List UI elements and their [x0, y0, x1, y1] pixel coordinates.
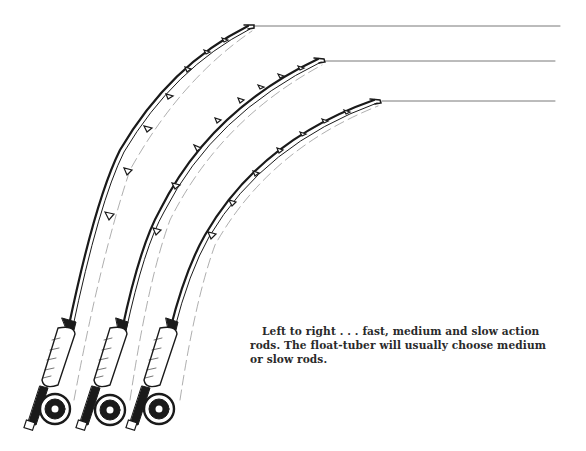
rod-guides [208, 110, 350, 239]
medium-rod-handle-and-reel [76, 318, 128, 430]
caption-line-1: Left to right . . . fast, medium and slo… [250, 324, 560, 338]
caption-line-3: or slow rods. [250, 352, 560, 366]
caption-line-2: rods. The float-tuber will usually choos… [250, 338, 560, 352]
fast-rod-handle-and-reel [24, 318, 76, 430]
figure-caption: Left to right . . . fast, medium and slo… [250, 324, 560, 366]
rod-illustration [0, 0, 586, 451]
slow-rod-handle-and-reel [126, 318, 178, 430]
